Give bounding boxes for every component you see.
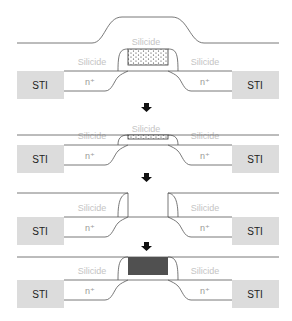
replacement-gate-process-diagram: STISTIn⁺n⁺SilicideSilicideSilicideSTISTI… — [0, 0, 292, 321]
n-plus-label-right: n⁺ — [200, 151, 210, 161]
process-step-4: STISTIn⁺n⁺SilicideSilicide — [17, 257, 279, 308]
silicide-label-right: Silicide — [191, 266, 220, 276]
dielectric-left — [17, 193, 128, 217]
spacer-left — [118, 193, 128, 217]
n-plus-label-left: n⁺ — [85, 151, 95, 161]
n-plus-junction-left — [64, 71, 128, 91]
n-plus-junction-left — [64, 280, 128, 300]
n-plus-label-right: n⁺ — [200, 77, 210, 87]
down-arrow-icon — [141, 103, 152, 112]
n-plus-label-right: n⁺ — [200, 286, 210, 296]
down-arrow-icon — [141, 242, 152, 251]
sti-label-right: STI — [247, 80, 263, 91]
metal-gate — [128, 257, 168, 275]
sti-label-left: STI — [32, 80, 48, 91]
n-plus-label-right: n⁺ — [200, 223, 210, 233]
spacer-left — [118, 135, 128, 145]
sti-label-left: STI — [32, 226, 48, 237]
spacer-right — [168, 257, 178, 280]
process-step-1: STISTIn⁺n⁺SilicideSilicideSilicide — [17, 17, 279, 99]
sti-label-right: STI — [247, 226, 263, 237]
silicide-label-left: Silicide — [78, 203, 107, 213]
silicide-label-left: Silicide — [78, 131, 107, 141]
spacer-right — [168, 135, 178, 145]
down-arrow-icon — [141, 173, 152, 182]
silicide-label-left: Silicide — [78, 57, 107, 67]
spacer-right — [168, 49, 178, 71]
process-step-2: STISTIn⁺n⁺SilicideSilicideSilicide — [17, 124, 279, 173]
silicide-label-right: Silicide — [191, 131, 220, 141]
silicide-label-left: Silicide — [78, 266, 107, 276]
sti-label-right: STI — [247, 154, 263, 165]
dummy-poly-gate — [128, 49, 168, 65]
n-plus-junction-left — [64, 145, 128, 165]
silicide-label-gate: Silicide — [132, 124, 161, 134]
dielectric-right — [168, 193, 279, 217]
spacer-left — [118, 257, 128, 280]
sti-label-left: STI — [32, 154, 48, 165]
spacer-left — [118, 49, 128, 71]
process-step-3: STISTIn⁺n⁺SilicideSilicide — [17, 193, 279, 245]
n-plus-label-left: n⁺ — [85, 223, 95, 233]
n-plus-label-left: n⁺ — [85, 77, 95, 87]
sti-label-right: STI — [247, 289, 263, 300]
dummy-poly-gate — [128, 135, 168, 139]
silicide-label-right: Silicide — [191, 203, 220, 213]
silicide-label-gate: Silicide — [132, 37, 161, 47]
sti-label-left: STI — [32, 289, 48, 300]
n-plus-junction-left — [64, 217, 128, 237]
n-plus-label-left: n⁺ — [85, 286, 95, 296]
spacer-right — [168, 193, 178, 217]
silicide-label-right: Silicide — [191, 57, 220, 67]
